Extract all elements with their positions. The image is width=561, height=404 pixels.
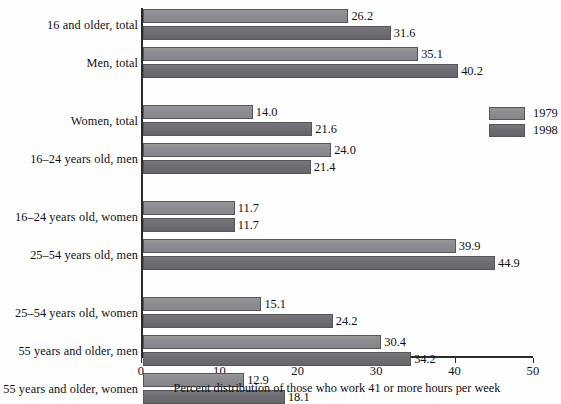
bar-value-label: 34.2: [411, 352, 436, 366]
bar: [143, 105, 253, 119]
category-label: Women, total: [71, 113, 138, 128]
bar: [143, 314, 333, 328]
bar-value-label: 44.9: [495, 256, 520, 270]
bar-value-label: 40.2: [458, 64, 483, 78]
bar-value-label: 30.4: [381, 335, 406, 349]
bar-chart: 01020304050 16 and older, totalMen, tota…: [0, 0, 561, 404]
x-tick-50: [533, 358, 534, 363]
bar-value-label: 15.1: [261, 297, 286, 311]
x-tick-0: [141, 358, 142, 363]
x-tick-label-50: 50: [527, 364, 540, 379]
category-label: 16–24 years old, men: [30, 151, 138, 166]
bar: [143, 143, 331, 157]
category-label: 25–54 years old, men: [30, 247, 138, 262]
chart-legend: 1979 1998: [489, 105, 558, 139]
legend-item-1979: 1979: [489, 105, 558, 122]
bar-value-label: 21.6: [312, 122, 337, 136]
bar: [143, 239, 456, 253]
bar: [143, 218, 235, 232]
category-label: 25–54 years old, women: [15, 305, 138, 320]
x-tick-40: [455, 358, 456, 363]
bar-value-label: 31.6: [391, 26, 416, 40]
bar-value-label: 24.0: [331, 143, 356, 157]
bar-value-label: 21.4: [311, 160, 336, 174]
x-tick-label-20: 20: [291, 364, 304, 379]
legend-item-1998: 1998: [489, 122, 558, 139]
bar-value-label: 39.9: [456, 239, 481, 253]
bar: [143, 64, 458, 78]
x-tick-label-40: 40: [448, 364, 461, 379]
bar-value-label: 11.7: [235, 201, 259, 215]
bar-value-label: 11.7: [235, 218, 259, 232]
category-label: 16–24 years old, women: [15, 209, 138, 224]
legend-swatch-1998: [489, 124, 525, 137]
bar: [143, 47, 418, 61]
bar: [143, 297, 261, 311]
bar-value-label: 26.2: [348, 9, 373, 23]
bar-value-label: 35.1: [418, 47, 443, 61]
bar: [143, 26, 391, 40]
bar: [143, 160, 311, 174]
category-label: 55 years and older, men: [18, 343, 138, 358]
bar: [143, 352, 411, 366]
category-label: 55 years and older, women: [3, 381, 138, 396]
bar: [143, 335, 381, 349]
legend-label-1979: 1979: [533, 106, 558, 121]
x-axis-title: Percent distribution of those who work 4…: [141, 381, 533, 396]
bar: [143, 201, 235, 215]
category-label: Men, total: [86, 55, 138, 70]
bar-value-label: 24.2: [333, 314, 358, 328]
bar-value-label: 14.0: [253, 105, 278, 119]
bar: [143, 122, 312, 136]
category-label: 16 and older, total: [47, 17, 138, 32]
bar: [143, 9, 348, 23]
legend-label-1998: 1998: [533, 123, 558, 138]
legend-swatch-1979: [489, 107, 525, 120]
bar: [143, 256, 495, 270]
x-tick-label-30: 30: [370, 364, 383, 379]
